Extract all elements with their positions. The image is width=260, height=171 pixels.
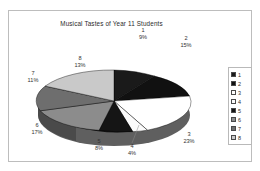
legend-item-1[interactable]: 1: [231, 70, 249, 79]
legend-label-5: 5: [238, 108, 241, 114]
pie-label-3-pct: 23%: [174, 138, 204, 145]
pie-label-4-pct: 4%: [117, 150, 147, 157]
pie-label-8: 8 13%: [66, 55, 94, 69]
pie-label-4: 4 4%: [117, 143, 147, 157]
legend-label-3: 3: [238, 90, 241, 96]
pie-label-3-name: 3: [174, 131, 204, 138]
legend-item-7[interactable]: 7: [231, 124, 249, 133]
chart-screenshot: Musical Tastes of Year 11 Students: [0, 0, 260, 171]
legend-swatch-icon-8: [231, 135, 236, 140]
pie-label-5-name: 5: [84, 138, 114, 145]
pie-label-2: 2 15%: [171, 35, 201, 49]
pie-label-8-pct: 13%: [66, 62, 94, 69]
pie-label-6: 6 17%: [25, 122, 49, 136]
legend-swatch-icon-1: [231, 72, 236, 77]
legend-swatch-icon-6: [231, 117, 236, 122]
pie-label-7-name: 7: [21, 70, 45, 77]
legend-swatch-icon-4: [231, 99, 236, 104]
chart-title: Musical Tastes of Year 11 Students: [9, 20, 214, 27]
legend-swatch-icon-7: [231, 126, 236, 131]
legend-swatch-icon-2: [231, 81, 236, 86]
pie-label-4-name: 4: [117, 143, 147, 150]
legend-swatch-icon-3: [231, 90, 236, 95]
legend-item-2[interactable]: 2: [231, 79, 249, 88]
pie-label-3: 3 23%: [174, 131, 204, 145]
pie-label-1: 1 9%: [128, 27, 158, 41]
legend-label-1: 1: [238, 72, 241, 78]
pie-label-8-name: 8: [66, 55, 94, 62]
pie-label-5-pct: 8%: [84, 145, 114, 152]
legend-label-2: 2: [238, 81, 241, 87]
chart-legend: 1 2 3 4 5 6 7: [228, 67, 252, 145]
legend-label-7: 7: [238, 126, 241, 132]
pie-label-1-pct: 9%: [128, 34, 158, 41]
legend-label-4: 4: [238, 99, 241, 105]
pie-chart: 1 9% 2 15% 3 23% 4 4% 5 8% 6 17%: [19, 39, 209, 159]
pie-label-2-name: 2: [171, 35, 201, 42]
chart-plot-frame: Musical Tastes of Year 11 Students: [8, 10, 252, 162]
legend-item-6[interactable]: 6: [231, 115, 249, 124]
pie-label-7-pct: 11%: [21, 77, 45, 84]
pie-label-6-pct: 17%: [25, 129, 49, 136]
legend-label-8: 8: [238, 135, 241, 141]
legend-item-8[interactable]: 8: [231, 133, 249, 142]
legend-item-4[interactable]: 4: [231, 97, 249, 106]
pie-label-5: 5 8%: [84, 138, 114, 152]
pie-label-2-pct: 15%: [171, 42, 201, 49]
legend-label-6: 6: [238, 117, 241, 123]
pie-label-6-name: 6: [25, 122, 49, 129]
legend-item-5[interactable]: 5: [231, 106, 249, 115]
pie-label-7: 7 11%: [21, 70, 45, 84]
legend-swatch-icon-5: [231, 108, 236, 113]
pie-label-1-name: 1: [128, 27, 158, 34]
legend-item-3[interactable]: 3: [231, 88, 249, 97]
